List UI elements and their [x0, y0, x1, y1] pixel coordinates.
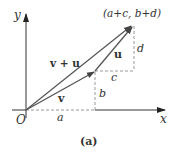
x-axis-label: x — [160, 112, 167, 126]
component-c-label: c — [111, 71, 117, 84]
vector-v-plus-u-label: v + u — [49, 57, 80, 69]
point-label: (a+c, b+d) — [103, 7, 161, 19]
figure-caption: (a) — [80, 135, 98, 148]
vector-addition-diagram: y x O (a+c, b+d) v u v + u a b c d (a) — [0, 0, 178, 156]
vector-u-label: u — [114, 48, 122, 61]
component-b-label: b — [99, 87, 106, 100]
vector-v-label: v — [57, 92, 65, 105]
origin-label: O — [16, 113, 26, 127]
component-a-label: a — [57, 111, 64, 124]
component-d-label: d — [137, 42, 144, 55]
y-axis-label: y — [13, 8, 21, 22]
